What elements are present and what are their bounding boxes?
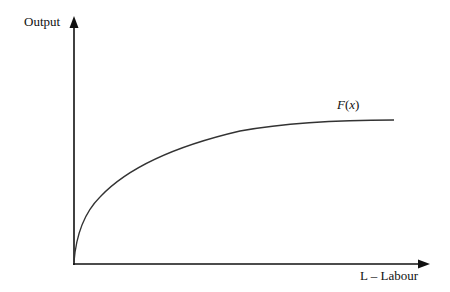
x-axis-label: L – Labour	[360, 268, 418, 284]
x-axis-arrow-icon	[418, 260, 430, 269]
y-axis-arrow-icon	[70, 16, 79, 28]
production-function-diagram	[0, 0, 450, 292]
curve-label: F(x)	[337, 97, 359, 113]
curve-label-function: F	[337, 97, 345, 112]
production-curve	[74, 120, 394, 262]
curve-label-close-paren: )	[355, 97, 359, 112]
y-axis-label: Output	[24, 14, 60, 30]
